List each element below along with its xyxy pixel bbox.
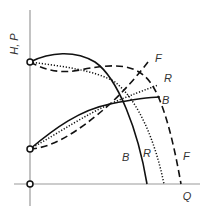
label-power-R: R bbox=[164, 72, 172, 84]
head-curve-B bbox=[30, 54, 147, 184]
label-head-R: R bbox=[143, 147, 151, 159]
label-power-B: B bbox=[162, 94, 169, 106]
label-head-F: F bbox=[183, 150, 191, 162]
pump-characteristic-diagram: H, P Q F R B B R F bbox=[0, 0, 204, 209]
power-curve-F bbox=[30, 62, 148, 149]
head-curve-F bbox=[30, 62, 181, 184]
x-axis-label: Q bbox=[183, 190, 192, 202]
label-power-F: F bbox=[155, 52, 163, 64]
shutoff-head-point bbox=[27, 59, 33, 65]
shutoff-power-point bbox=[27, 146, 33, 152]
origin-point bbox=[27, 181, 33, 187]
y-axis-label: H, P bbox=[8, 33, 20, 55]
power-curve-B bbox=[30, 97, 160, 149]
label-head-B: B bbox=[122, 151, 129, 163]
